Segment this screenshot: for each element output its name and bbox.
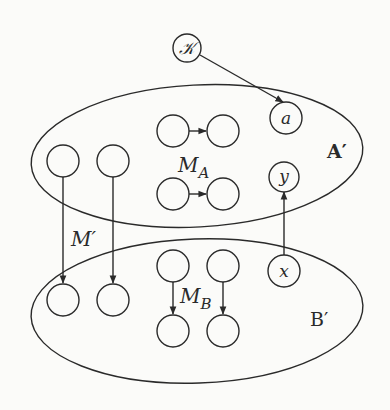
node-a-left-1: [47, 145, 79, 177]
label-a-prime: A′: [326, 140, 347, 162]
node-y: y: [269, 162, 299, 192]
matching-diagram: 𝒦 a y x MA MB M′ A′ B′: [0, 0, 390, 410]
node-k: 𝒦: [173, 34, 201, 62]
node-b-left-1: [47, 284, 79, 316]
node-a: a: [270, 102, 302, 134]
label-b-prime: B′: [310, 308, 328, 330]
node-mb-bot-1: [157, 315, 189, 347]
node-ma-bot-2: [207, 178, 239, 210]
node-a-left-2: [97, 145, 129, 177]
node-ma-top-1: [157, 115, 189, 147]
node-mb-bot-2: [207, 315, 239, 347]
node-x: x: [268, 255, 300, 287]
node-b-left-2: [97, 284, 129, 316]
node-x-label: x: [279, 261, 289, 281]
node-ma-top-2: [207, 115, 239, 147]
node-ma-bot-1: [157, 178, 189, 210]
node-y-label: y: [278, 166, 289, 186]
node-mb-top-1: [157, 250, 189, 282]
label-m-a: MA: [177, 153, 209, 182]
node-a-label: a: [281, 108, 291, 128]
node-mb-top-2: [207, 250, 239, 282]
label-m-b: MB: [179, 284, 212, 313]
edge-k-to-a: [200, 55, 283, 102]
label-m-prime: M′: [70, 227, 96, 251]
